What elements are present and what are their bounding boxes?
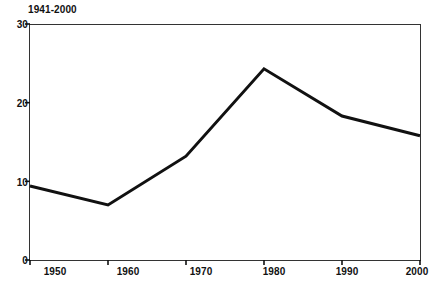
- plot-frame: [30, 25, 421, 261]
- line-chart: 1941-2000 30 20 10 0 1950 1960 1970 1980…: [0, 0, 436, 288]
- plot-area: [0, 0, 436, 288]
- data-series-line: [30, 69, 420, 205]
